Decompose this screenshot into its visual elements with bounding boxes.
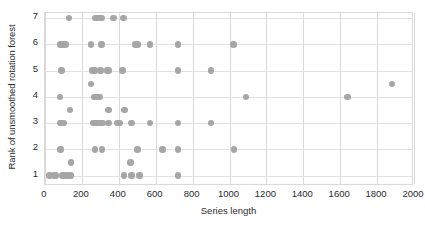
data-point (62, 41, 69, 48)
y-tick-label: 6 (20, 36, 38, 47)
data-point (135, 41, 142, 48)
x-gridline (82, 13, 83, 184)
x-gridline (230, 13, 231, 184)
scatter-chart: Rank of unsmoothed rotation forest Serie… (0, 0, 425, 233)
x-tick-label: 2000 (393, 188, 425, 199)
data-point (121, 172, 128, 179)
x-tick-label: 1400 (282, 188, 322, 199)
data-point (57, 94, 64, 101)
data-point (67, 107, 74, 114)
data-point (88, 81, 95, 88)
data-point (53, 172, 60, 179)
data-point (88, 41, 95, 48)
data-point (344, 94, 351, 101)
x-tick-label: 400 (98, 188, 138, 199)
data-point (243, 94, 250, 101)
data-point (128, 120, 135, 127)
data-point (175, 41, 182, 48)
data-point (97, 67, 104, 74)
x-tick-label: 0 (24, 188, 64, 199)
x-gridline (266, 13, 267, 184)
data-point (147, 120, 154, 127)
x-gridline (303, 13, 304, 184)
data-point (68, 172, 75, 179)
data-point (230, 41, 237, 48)
data-point (119, 67, 126, 74)
data-point (136, 172, 143, 179)
x-axis-title: Series length (44, 205, 413, 216)
data-point (116, 120, 123, 127)
data-point (231, 146, 238, 153)
data-point (120, 15, 127, 22)
data-point (175, 67, 182, 74)
x-tick-label: 1600 (319, 188, 359, 199)
data-point (110, 15, 117, 22)
data-point (159, 146, 166, 153)
data-point (92, 146, 99, 153)
data-point (134, 146, 141, 153)
data-point (61, 120, 68, 127)
y-gridline (45, 176, 412, 177)
y-tick-label: 2 (20, 141, 38, 152)
data-point (105, 120, 112, 127)
y-tick-label: 7 (20, 10, 38, 21)
data-point (66, 15, 73, 22)
x-gridline (156, 13, 157, 184)
data-point (57, 146, 64, 153)
x-tick-label: 600 (135, 188, 175, 199)
x-gridline (340, 13, 341, 184)
data-point (68, 159, 75, 166)
x-tick-label: 1800 (356, 188, 396, 199)
x-tick-label: 200 (61, 188, 101, 199)
data-point (208, 67, 215, 74)
data-point (96, 94, 103, 101)
data-point (58, 67, 65, 74)
data-point (175, 120, 182, 127)
y-tick-label: 5 (20, 63, 38, 74)
x-gridline (193, 13, 194, 184)
x-tick-label: 800 (172, 188, 212, 199)
y-tick-label: 4 (20, 89, 38, 100)
y-axis-title: Rank of unsmoothed rotation forest (4, 4, 18, 190)
x-gridline (45, 13, 46, 184)
data-point (127, 159, 134, 166)
y-tick-label: 1 (20, 168, 38, 179)
data-point (175, 172, 182, 179)
data-point (389, 81, 396, 88)
x-gridline (377, 13, 378, 184)
x-gridline (119, 13, 120, 184)
data-point (99, 15, 106, 22)
plot-area (44, 12, 413, 185)
data-point (175, 146, 182, 153)
x-gridline (414, 13, 415, 184)
data-point (99, 146, 106, 153)
data-point (105, 107, 112, 114)
data-point (98, 41, 105, 48)
data-point (147, 41, 154, 48)
data-point (121, 107, 128, 114)
y-tick-label: 3 (20, 115, 38, 126)
data-point (208, 120, 215, 127)
x-tick-label: 1200 (245, 188, 285, 199)
data-point (128, 172, 135, 179)
x-tick-label: 1000 (209, 188, 249, 199)
data-point (105, 67, 112, 74)
